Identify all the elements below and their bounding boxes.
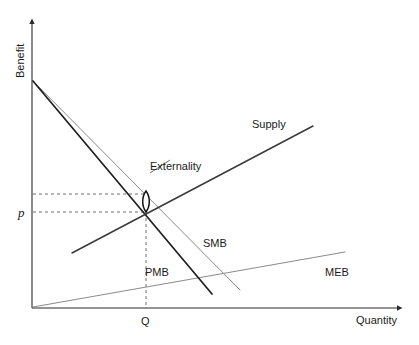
diagram-canvas: Benefit Quantity Externality Suppl [0, 0, 419, 345]
smb-label: SMB [203, 237, 227, 249]
y-axis-label: Benefit [14, 44, 26, 78]
pmb-label: PMB [145, 266, 169, 278]
externality-lens [143, 191, 150, 212]
meb-curve [33, 252, 345, 307]
quantity-tick-label: Q [141, 315, 150, 327]
externality-diagram: Benefit Quantity Externality Suppl [0, 0, 419, 345]
supply-curve [72, 126, 313, 253]
x-axis-label: Quantity [356, 314, 397, 326]
price-tick-label: p [17, 205, 25, 220]
supply-label: Supply [252, 118, 286, 130]
meb-label: MEB [325, 266, 349, 278]
pmb-curve [33, 81, 212, 294]
smb-curve [33, 81, 240, 290]
externality-label: Externality [150, 160, 202, 172]
curves-group [33, 81, 345, 307]
